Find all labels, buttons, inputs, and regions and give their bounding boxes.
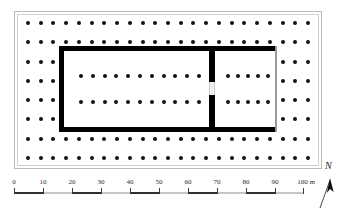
- peristyle-column: [26, 60, 30, 64]
- peristyle-column: [306, 79, 310, 83]
- peristyle-column: [268, 137, 272, 141]
- doorway: [209, 82, 215, 95]
- scale-tick-mark: [246, 188, 247, 194]
- peristyle-column: [166, 137, 170, 141]
- peristyle-column: [281, 79, 285, 83]
- peristyle-column: [306, 21, 310, 25]
- peristyle-column: [268, 21, 272, 25]
- scale-bar: 0102030405060708090100 m: [14, 178, 304, 204]
- naos-column: [197, 74, 201, 78]
- peristyle-column: [230, 137, 234, 141]
- cella-wall-south: [59, 127, 277, 132]
- naos-column: [91, 74, 95, 78]
- naos-column: [150, 100, 154, 104]
- peristyle-column: [179, 21, 183, 25]
- peristyle-column: [39, 79, 43, 83]
- scale-segment: [246, 192, 275, 194]
- scale-tick-label: 20: [69, 178, 76, 186]
- scale-tick-mark: [130, 188, 131, 194]
- cella-east-thin-boundary: [275, 46, 277, 132]
- temple-ground-plan-figure: 0102030405060708090100 m N: [0, 0, 341, 212]
- peristyle-column: [255, 137, 259, 141]
- peristyle-column: [90, 137, 94, 141]
- peristyle-column: [306, 60, 310, 64]
- scale-tick-mark: [188, 188, 189, 194]
- peristyle-column: [26, 79, 30, 83]
- naos-column: [91, 100, 95, 104]
- scale-segment: [43, 192, 72, 194]
- peristyle-column: [128, 21, 132, 25]
- peristyle-column: [230, 40, 234, 44]
- east-chamber-column: [256, 74, 260, 78]
- scale-tick-mark: [159, 188, 160, 194]
- peristyle-column: [281, 60, 285, 64]
- naos-column: [197, 100, 201, 104]
- naos-column: [103, 100, 107, 104]
- peristyle-column: [77, 137, 81, 141]
- peristyle-column: [141, 137, 145, 141]
- scale-segment: [130, 192, 159, 194]
- peristyle-column: [77, 156, 81, 160]
- peristyle-column: [268, 156, 272, 160]
- naos-column: [150, 74, 154, 78]
- peristyle-column: [90, 21, 94, 25]
- peristyle-column: [281, 137, 285, 141]
- peristyle-column: [26, 137, 30, 141]
- peristyle-column: [166, 21, 170, 25]
- peristyle-column: [39, 21, 43, 25]
- peristyle-column: [230, 156, 234, 160]
- scale-end-label: 100 m: [297, 178, 315, 186]
- peristyle-column: [39, 60, 43, 64]
- scale-tick-label: 80: [243, 178, 250, 186]
- peristyle-column: [77, 21, 81, 25]
- peristyle-column: [64, 137, 68, 141]
- cella-interior: [59, 46, 277, 132]
- peristyle-column: [217, 156, 221, 160]
- peristyle-column: [153, 137, 157, 141]
- scale-tick-label: 90: [272, 178, 279, 186]
- east-chamber-column: [246, 100, 250, 104]
- naos-column: [103, 74, 107, 78]
- scale-tick-mark: [275, 188, 276, 194]
- peristyle-column: [39, 137, 43, 141]
- peristyle-column: [293, 60, 297, 64]
- scale-segment: [101, 192, 130, 194]
- peristyle-column: [128, 137, 132, 141]
- peristyle-column: [179, 137, 183, 141]
- cella-wall-west: [59, 46, 64, 132]
- peristyle-column: [306, 156, 310, 160]
- north-arrow: N: [316, 160, 340, 210]
- naos-column: [79, 74, 83, 78]
- peristyle-column: [90, 40, 94, 44]
- scale-segment: [275, 192, 304, 194]
- naos-column: [138, 100, 142, 104]
- east-chamber-column: [266, 100, 270, 104]
- scale-tick-label: 50: [156, 178, 163, 186]
- plan-frame: [14, 11, 322, 169]
- peristyle-column: [230, 21, 234, 25]
- scale-tick-label: 40: [127, 178, 134, 186]
- north-arrow-icon: [316, 170, 340, 210]
- naos-column: [138, 74, 142, 78]
- peristyle-column: [217, 21, 221, 25]
- peristyle-column: [217, 137, 221, 141]
- scale-tick-mark: [72, 188, 73, 194]
- peristyle-column: [39, 156, 43, 160]
- cella: [59, 46, 277, 132]
- peristyle-column: [39, 98, 43, 102]
- peristyle-column: [281, 98, 285, 102]
- scale-segment: [72, 192, 101, 194]
- peristyle-column: [293, 137, 297, 141]
- scale-segment: [14, 192, 43, 194]
- scale-tick-label: 0: [12, 178, 16, 186]
- scale-tick-mark: [303, 188, 304, 194]
- scale-tick-mark: [43, 188, 44, 194]
- east-chamber-column: [256, 100, 260, 104]
- east-chamber-column: [226, 100, 230, 104]
- peristyle-column: [166, 156, 170, 160]
- scale-segment: [188, 192, 217, 194]
- east-chamber-column: [236, 74, 240, 78]
- scale-tick-mark: [14, 188, 15, 194]
- scale-segment: [217, 192, 246, 194]
- east-chamber-column: [266, 74, 270, 78]
